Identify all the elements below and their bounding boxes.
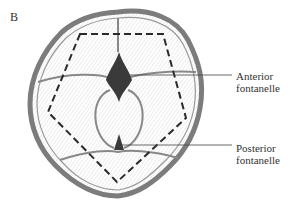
posterior-fontanelle-label: Posterior fontanelle: [236, 142, 280, 166]
panel-letter: B: [10, 10, 18, 25]
label-line: fontanelle: [236, 82, 280, 94]
label-line: Anterior: [236, 70, 280, 82]
label-line: Posterior: [236, 142, 280, 154]
skull-diagram: [0, 0, 302, 205]
label-line: fontanelle: [236, 154, 280, 166]
anterior-fontanelle-label: Anterior fontanelle: [236, 70, 280, 94]
skull-outline: [30, 11, 202, 196]
